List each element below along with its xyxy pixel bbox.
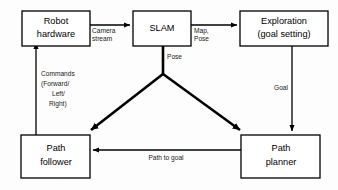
node-exploration[interactable]: Exploration (goal setting) [240,11,328,46]
edge-commands-label-line1: Commands [41,70,75,77]
edge-slam-to-exploration-label-line1: Map, [194,27,209,35]
block-diagram: Camera stream Map, Pose Pose Goal Path t… [0,0,338,190]
edge-robot-to-slam-label-line1: Camera [92,27,116,34]
diagram-canvas: Camera stream Map, Pose Pose Goal Path t… [0,0,338,190]
edge-path-to-goal-label: Path to goal [148,154,184,162]
node-robot-hardware[interactable]: Robot hardware [22,11,90,46]
node-robot-hardware-label-line2: hardware [37,29,75,39]
edge-goal-label: Goal [274,84,288,91]
node-path-follower-label-line1: Path [47,143,66,153]
edge-pose-label: Pose [167,53,182,60]
node-exploration-label-line2: (goal setting) [257,29,310,39]
node-slam[interactable]: SLAM [133,11,191,46]
edge-pose-to-path-follower [91,74,163,130]
node-path-planner-label-line2: planner [266,157,297,167]
node-robot-hardware-label-line1: Robot [44,16,69,26]
edge-commands-label-line3: Left/ [52,90,65,97]
node-path-planner[interactable]: Path planner [241,135,320,178]
edge-commands-label-line2: (Forward/ [41,80,69,88]
edge-slam-to-exploration-label-line2: Pose [194,35,209,42]
node-path-follower[interactable]: Path follower [21,135,90,178]
edge-slam-to-exploration: Map, Pose [191,25,237,42]
edge-robot-to-slam-label-line2: stream [92,35,113,42]
edge-path-planner-to-path-follower: Path to goal [93,150,241,162]
node-slam-label-line1: SLAM [149,23,174,33]
node-path-follower-label-line2: follower [40,157,72,167]
node-path-planner-label-line1: Path [272,143,291,153]
edge-exploration-to-path-planner: Goal [274,46,292,131]
edge-robot-to-slam: Camera stream [90,25,130,42]
node-exploration-label-line1: Exploration [261,16,307,26]
edge-path-follower-to-robot: Commands (Forward/ Left/ Right) [36,43,75,135]
edge-slam-pose-fork: Pose [91,46,240,130]
edge-pose-to-path-planner [163,74,240,130]
edge-commands-label-line4: Right) [49,100,67,108]
